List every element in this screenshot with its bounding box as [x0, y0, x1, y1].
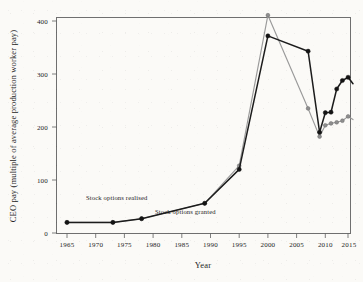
series-line-granted [67, 15, 353, 222]
x-tick-label: 2005 [289, 241, 304, 249]
data-point-realised [335, 87, 339, 91]
annotation-stock-options-granted: Stock options granted [155, 208, 216, 215]
y-tick-label: 400 [37, 18, 48, 26]
data-point-realised [340, 78, 344, 82]
y-axis-ticks [52, 21, 57, 233]
data-point-realised [65, 220, 69, 224]
data-point-realised [306, 49, 310, 53]
x-tick-label: 2015 [342, 241, 357, 249]
data-point-granted [318, 135, 322, 139]
data-point-realised [140, 217, 144, 221]
data-point-realised [329, 110, 333, 114]
x-tick-label: 1965 [60, 241, 75, 249]
data-point-realised [203, 201, 207, 205]
x-tick-label: 1985 [174, 241, 189, 249]
x-tick-label: 1975 [117, 241, 132, 249]
x-tick-label: 1970 [88, 241, 103, 249]
x-axis-tick-labels: 1965 1970 1975 1980 1985 1990 1995 2000 … [60, 241, 357, 249]
y-tick-label: 0 [44, 230, 48, 238]
data-point-granted [329, 122, 333, 126]
x-axis-title: Year [195, 260, 211, 270]
y-axis-tick-labels: 0 100 200 300 400 [37, 18, 48, 238]
data-point-realised [318, 130, 322, 134]
y-tick-label: 300 [37, 71, 48, 79]
data-point-realised [346, 75, 350, 79]
y-axis-title: CEO pay (multiple of average production … [8, 30, 18, 222]
series-stock-options-granted [65, 13, 353, 224]
data-point-realised [111, 220, 115, 224]
data-point-granted [323, 123, 327, 127]
data-point-granted [306, 107, 310, 111]
chart-figure: 0 100 200 300 400 1965 1970 1975 1980 [0, 0, 363, 282]
x-tick-label: 1990 [203, 241, 218, 249]
data-point-granted [335, 120, 339, 124]
ceo-pay-line-chart: 0 100 200 300 400 1965 1970 1975 1980 [0, 0, 363, 282]
y-tick-label: 200 [37, 124, 48, 132]
annotation-stock-options-realised: Stock options realised [86, 194, 148, 201]
y-tick-label: 100 [37, 177, 48, 185]
data-point-granted [341, 119, 345, 123]
x-tick-label: 2000 [260, 241, 275, 249]
data-point-realised [237, 167, 241, 171]
data-point-granted [346, 115, 350, 119]
x-tick-label: 2010 [318, 241, 333, 249]
data-point-granted [266, 13, 270, 17]
x-tick-label: 1995 [232, 241, 247, 249]
x-axis-ticks [67, 234, 348, 239]
data-point-realised [323, 111, 327, 115]
data-point-realised [266, 34, 270, 38]
x-tick-label: 1980 [146, 241, 161, 249]
